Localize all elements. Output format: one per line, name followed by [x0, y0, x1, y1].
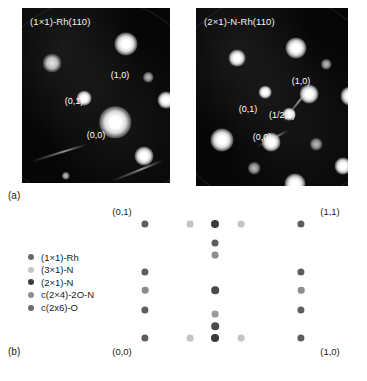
schematic-spot-6	[212, 252, 219, 259]
schematic-spot-13	[297, 306, 304, 313]
spot-index-label-right-3: (0,0)	[253, 132, 272, 142]
schematic-spot-7	[141, 268, 148, 275]
diffraction-spot-right-2	[321, 59, 332, 70]
leed-image-row: (1×1)-Rh(110) (1,0)(0,1)(0,0) (2×1)-N-Rh…	[0, 0, 367, 190]
diffraction-spot-right-9	[310, 138, 323, 151]
diffraction-ring-right	[196, 8, 348, 186]
schematic-spot-20	[297, 334, 304, 341]
schematic-spot-16	[141, 334, 148, 341]
schematic-spot-3	[238, 221, 245, 228]
schematic-spot-12	[141, 306, 148, 313]
legend-label-3: c(2×4)-2O-N	[41, 290, 94, 300]
diffraction-spot-right-7	[210, 128, 233, 151]
schematic-spot-5	[212, 240, 219, 247]
diffraction-spot-right-10	[248, 162, 261, 175]
legend-marker-icon-0	[28, 254, 34, 260]
schematic-index-label-3: (1,0)	[320, 346, 340, 357]
diffraction-spot-right-1	[229, 50, 246, 67]
legend: (1×1)-Rh(3×1)-N(2×1)-Nc(2×4)-2O-Nc(2x6)-…	[28, 251, 94, 314]
legend-item-1: (3×1)-N	[28, 264, 94, 277]
legend-marker-icon-4	[28, 305, 34, 311]
schematic-spot-15	[211, 322, 219, 330]
legend-item-3: c(2×4)-2O-N	[28, 289, 94, 302]
spot-index-label-right-0: (1,0)	[292, 76, 311, 86]
legend-label-0: (1×1)-Rh	[41, 253, 79, 263]
schematic-spot-10	[211, 286, 219, 294]
schematic-spot-9	[142, 287, 149, 294]
legend-item-4: c(2x6)-O	[28, 301, 94, 314]
diffraction-spot-right-4	[300, 85, 319, 104]
diffraction-spot-left-0	[114, 32, 137, 55]
diffraction-spot-left-1	[43, 54, 62, 73]
schematic-spot-8	[297, 268, 304, 275]
leed-pattern-1x1-rh110: (1×1)-Rh(110) (1,0)(0,1)(0,0)	[22, 8, 170, 183]
diffraction-spot-left-2	[143, 72, 154, 83]
diffraction-spot-left-6	[135, 147, 154, 166]
leed-title-left: (1×1)-Rh(110)	[30, 16, 91, 27]
schematic-index-label-0: (0,1)	[112, 206, 132, 217]
spot-index-label-right-1: (0,1)	[239, 104, 258, 114]
legend-marker-icon-3	[28, 292, 34, 298]
spot-index-label-left-1: (0,1)	[65, 96, 84, 106]
schematic-spot-11	[298, 287, 305, 294]
legend-item-0: (1×1)-Rh	[28, 251, 94, 264]
legend-label-1: (3×1)-N	[41, 265, 73, 275]
legend-marker-icon-1	[28, 267, 34, 273]
schematic-spot-14	[212, 311, 219, 318]
schematic-index-label-1: (1,1)	[320, 206, 340, 217]
schematic-index-label-2: (0,0)	[112, 346, 132, 357]
legend-marker-icon-2	[28, 279, 34, 285]
schematic-spot-2	[211, 220, 219, 228]
spot-index-label-left-2: (0,0)	[87, 130, 106, 140]
diffraction-spot-right-11	[335, 158, 348, 175]
spot-index-label-right-2: (1/2,0)	[269, 110, 295, 120]
legend-label-2: (2×1)-N	[41, 278, 73, 288]
schematic-spot-4	[297, 220, 304, 227]
legend-label-4: c(2x6)-O	[41, 303, 78, 313]
spot-index-label-left-0: (1,0)	[111, 70, 130, 80]
leed-title-right: (2×1)-N-Rh(110)	[204, 16, 275, 27]
diffraction-spot-right-3	[259, 86, 272, 99]
diffraction-spot-right-0	[286, 38, 307, 59]
leed-pattern-2x1-n-rh110: (2×1)-N-Rh(110) (1,0)(0,1)(1/2,0)(0,0)	[196, 8, 348, 186]
schematic-spot-18	[211, 334, 219, 342]
legend-item-2: (2×1)-N	[28, 276, 94, 289]
schematic-spot-0	[141, 220, 148, 227]
schematic-spot-17	[187, 335, 194, 342]
diffraction-spot-left-4	[158, 92, 170, 109]
schematic-spot-19	[238, 335, 245, 342]
schematic-spot-1	[187, 221, 194, 228]
